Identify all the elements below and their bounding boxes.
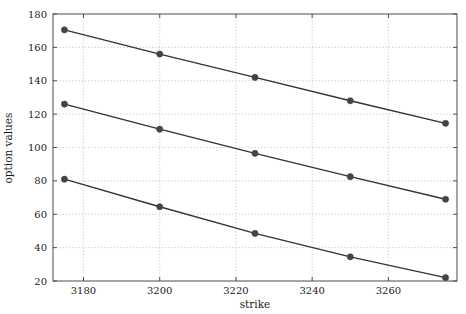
data-point-marker: [442, 275, 448, 281]
data-point-marker: [157, 126, 163, 132]
data-point-marker: [61, 101, 67, 107]
y-tick-label: 20: [34, 276, 47, 287]
chart-figure: 20406080100120140160180 3180320032203240…: [0, 0, 466, 314]
x-tick-label: 3240: [299, 285, 324, 296]
y-tick-label: 40: [34, 242, 47, 253]
data-point-marker: [347, 98, 353, 104]
y-tick-label: 180: [28, 9, 47, 20]
data-point-marker: [252, 74, 258, 80]
y-tick-label: 120: [28, 109, 47, 120]
data-point-marker: [347, 174, 353, 180]
data-point-marker: [252, 150, 258, 156]
data-point-marker: [442, 196, 448, 202]
y-tick-label: 140: [28, 75, 47, 86]
y-axis-title: option values: [2, 113, 14, 184]
y-tick-label: 100: [28, 142, 47, 153]
x-tick-label: 3260: [376, 285, 401, 296]
data-point-marker: [347, 254, 353, 260]
y-tick-label: 160: [28, 42, 47, 53]
x-tick-label: 3180: [71, 285, 96, 296]
data-point-marker: [61, 176, 67, 182]
y-tick-label: 60: [34, 209, 47, 220]
data-point-marker: [252, 230, 258, 236]
x-tick-label: 3200: [147, 285, 172, 296]
x-tick-label: 3220: [223, 285, 248, 296]
y-tick-label: 80: [34, 175, 47, 186]
data-point-marker: [442, 120, 448, 126]
x-axis-title: strike: [240, 298, 271, 310]
data-point-marker: [157, 51, 163, 57]
line-chart: 20406080100120140160180 3180320032203240…: [0, 0, 466, 314]
data-point-marker: [61, 27, 67, 33]
data-point-marker: [157, 204, 163, 210]
